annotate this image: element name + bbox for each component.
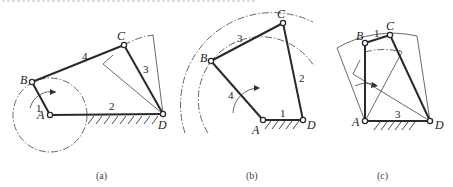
ground-hatch-c <box>374 122 415 130</box>
caption-c: (c) <box>377 170 388 182</box>
joint-B-b <box>208 58 213 63</box>
label-C-a: C <box>117 29 126 43</box>
joint-C-a <box>121 42 126 47</box>
joint-B-a <box>29 79 34 84</box>
ground-hatch-b <box>265 121 299 129</box>
panel-c: A B C D 1 3 (c) <box>337 19 444 182</box>
label-B-b: B <box>200 51 208 65</box>
ground-hatch-a <box>88 116 158 124</box>
label-link-3-a: 3 <box>143 63 149 75</box>
label-B-c: B <box>356 29 364 43</box>
label-B-a: B <box>20 73 28 87</box>
panel-b: A B C D 1 2 3 4 (b) <box>181 7 316 182</box>
joint-C-c <box>387 32 392 37</box>
label-D-a: D <box>157 118 167 132</box>
label-link-4-b: 4 <box>228 89 234 101</box>
joint-D-c <box>427 118 432 123</box>
rocker-limit-line-a <box>153 35 163 114</box>
link-3-b <box>211 23 283 61</box>
label-link-4-a: 4 <box>82 50 88 62</box>
label-link-3-b: 3 <box>237 32 243 44</box>
label-link-1-b: 1 <box>280 107 286 119</box>
label-link-2-b: 2 <box>299 72 305 84</box>
link-4-a <box>32 45 124 82</box>
link-2-a <box>50 114 163 115</box>
panel-a: A B C D 1 2 3 4 (a) <box>13 29 167 182</box>
label-D-b: D <box>306 118 316 132</box>
caption-a: (a) <box>96 170 107 182</box>
limit-line-left-c <box>337 48 365 121</box>
link-4-b <box>211 61 263 120</box>
joint-D-a <box>160 111 165 116</box>
label-link-1-c: 1 <box>374 27 380 39</box>
label-A-b: A <box>251 123 260 137</box>
label-C-c: C <box>386 19 395 33</box>
label-link-3-c: 3 <box>395 108 401 120</box>
label-C-b: C <box>277 7 286 21</box>
label-link-1-a: 1 <box>36 102 42 114</box>
rotation-arrow-icon-a <box>50 89 56 95</box>
label-D-c: D <box>434 118 444 132</box>
link-3-a <box>124 45 163 114</box>
joint-A-c <box>362 118 367 123</box>
joint-D-b <box>300 117 305 122</box>
joint-C-b <box>280 20 285 25</box>
rotation-arrow-icon-b <box>254 85 260 91</box>
rotation-arc-a <box>30 91 56 108</box>
joint-A-b <box>260 117 265 122</box>
caption-b: (b) <box>246 170 258 182</box>
joint-A-a <box>47 112 52 117</box>
label-link-2-a: 2 <box>109 100 115 112</box>
linkage-figure: A B C D 1 2 3 4 (a) A B C D 1 <box>0 0 453 187</box>
rocker-arc-a <box>124 35 153 45</box>
label-A-c: A <box>351 115 360 129</box>
